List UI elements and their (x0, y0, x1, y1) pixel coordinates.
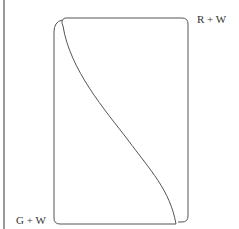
outer-frame-right (65, 18, 188, 222)
label-r-plus-w: R + W (197, 13, 226, 25)
outer-frame-left (54, 20, 176, 224)
diagram-canvas (0, 0, 239, 229)
transition-curve (62, 18, 176, 224)
label-g-plus-w: G + W (16, 214, 46, 226)
